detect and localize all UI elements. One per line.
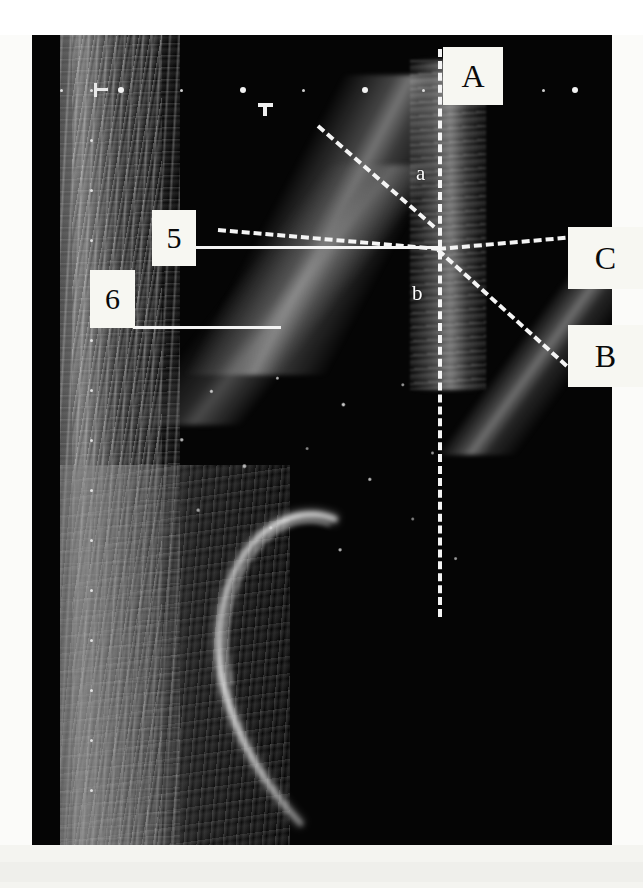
callout-label-5: 5 bbox=[152, 210, 196, 266]
left-scale-tick bbox=[90, 639, 93, 642]
inline-label-a: a bbox=[416, 163, 425, 184]
upper-solid-line bbox=[194, 246, 442, 249]
left-scale-tick bbox=[90, 589, 93, 592]
top-scale-tick bbox=[542, 89, 545, 92]
left-scale-tick bbox=[90, 439, 93, 442]
left-scale-tick bbox=[90, 789, 93, 792]
top-scale-tick bbox=[60, 89, 63, 92]
left-scale-tick bbox=[90, 239, 93, 242]
left-scale-tick bbox=[90, 339, 93, 342]
orientation-marker-icon bbox=[94, 83, 108, 97]
left-scale-tick bbox=[90, 89, 93, 92]
top-scale-tick bbox=[180, 89, 183, 92]
top-scale-tick bbox=[240, 87, 246, 93]
top-scale-tick bbox=[572, 87, 578, 93]
top-scale-tick bbox=[118, 87, 124, 93]
left-scale-tick bbox=[90, 739, 93, 742]
callout-label-6: 6 bbox=[90, 270, 135, 328]
curved-structure-echo bbox=[152, 465, 472, 845]
callout-label-C: C bbox=[568, 227, 643, 289]
ultrasound-scan-image bbox=[32, 35, 612, 845]
lower-solid-line bbox=[133, 326, 281, 329]
tissue-texture bbox=[32, 35, 612, 845]
left-scale-tick bbox=[90, 389, 93, 392]
top-scale-tick bbox=[302, 89, 305, 92]
callout-label-A: A bbox=[443, 47, 503, 105]
left-scale-tick bbox=[90, 689, 93, 692]
caliper-marker-icon bbox=[258, 103, 273, 119]
top-scale-tick bbox=[362, 87, 368, 93]
callout-label-B: B bbox=[568, 325, 643, 387]
paper-band-bottom-speckle bbox=[0, 862, 643, 882]
top-scale-tick bbox=[422, 89, 425, 92]
figure-canvas: A C B 5 6 a b bbox=[0, 0, 643, 888]
paper-band-top bbox=[0, 0, 643, 35]
left-scale-tick bbox=[90, 139, 93, 142]
vertical-dashed-line bbox=[438, 49, 442, 617]
inline-label-b: b bbox=[412, 283, 423, 304]
left-scale-tick bbox=[90, 189, 93, 192]
left-scale-tick bbox=[90, 489, 93, 492]
left-scale-tick bbox=[90, 539, 93, 542]
